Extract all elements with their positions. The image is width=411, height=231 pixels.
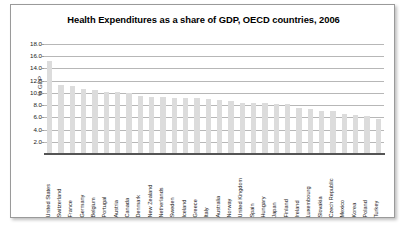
x-tick-label: Korea bbox=[352, 203, 358, 218]
bar bbox=[342, 114, 348, 154]
bar bbox=[149, 97, 155, 154]
x-tick-label: United States bbox=[46, 184, 52, 218]
x-tick-label: Sweden bbox=[171, 198, 177, 218]
x-tick-label: Australia bbox=[216, 196, 222, 218]
x-tick-label: Netherlands bbox=[159, 188, 165, 218]
bar bbox=[364, 116, 370, 154]
x-tick-label: United Kingdom bbox=[239, 178, 245, 218]
bar bbox=[353, 115, 359, 154]
x-tick-label: Austria bbox=[114, 201, 120, 218]
bar bbox=[274, 104, 280, 154]
bar bbox=[285, 104, 291, 154]
bar-series bbox=[44, 44, 384, 154]
x-axis-labels: United StatesSwitzerlandFranceGermanyBel… bbox=[44, 156, 384, 218]
x-tick-label: Greece bbox=[193, 200, 199, 218]
bar bbox=[330, 111, 336, 154]
bar bbox=[92, 90, 98, 154]
x-tick-label: Japan bbox=[273, 203, 279, 218]
bar bbox=[104, 92, 110, 154]
x-tick-label: Slovakia bbox=[318, 197, 324, 218]
bar bbox=[206, 99, 212, 154]
bar bbox=[308, 109, 314, 154]
bar bbox=[172, 98, 178, 154]
x-axis-line bbox=[44, 153, 385, 155]
x-tick-label: Denmark bbox=[137, 195, 143, 218]
x-tick-label: Germany bbox=[80, 195, 86, 218]
x-tick-label: Portugal bbox=[103, 197, 109, 218]
x-tick-label: Luxembourg bbox=[307, 187, 313, 218]
x-tick-label: Spain bbox=[250, 204, 256, 218]
x-tick-label: Turkey bbox=[375, 201, 381, 218]
x-tick-label: Poland bbox=[363, 201, 369, 218]
bar bbox=[47, 61, 53, 155]
x-tick-label: Belgium bbox=[91, 198, 97, 218]
bar bbox=[58, 85, 64, 154]
chart-frame: Health Expenditures as a share of GDP, O… bbox=[10, 4, 395, 218]
bar bbox=[319, 111, 325, 154]
x-tick-label: Iceland bbox=[182, 200, 188, 218]
bar bbox=[217, 100, 223, 154]
x-tick-label: Italy bbox=[205, 208, 211, 218]
x-tick-label: Finland bbox=[284, 200, 290, 218]
bar bbox=[160, 97, 166, 154]
bar bbox=[126, 93, 132, 154]
x-tick-label: Norway bbox=[227, 199, 233, 218]
plot-area bbox=[44, 44, 384, 154]
x-tick-label: Mexico bbox=[341, 200, 347, 218]
x-tick-label: Ireland bbox=[295, 201, 301, 218]
bar bbox=[138, 96, 144, 154]
bar bbox=[240, 103, 246, 154]
bar bbox=[296, 108, 302, 154]
y-axis-ticks: 18.016.014.012.010.08.06.04.02.0 bbox=[11, 44, 42, 154]
bar bbox=[228, 101, 234, 154]
bar bbox=[70, 86, 76, 154]
x-tick-label: Switzerland bbox=[57, 189, 63, 218]
bar bbox=[376, 119, 382, 154]
x-tick-label: New Zealand bbox=[148, 185, 154, 218]
bar bbox=[183, 98, 189, 154]
chart-title: Health Expenditures as a share of GDP, O… bbox=[11, 14, 396, 25]
x-tick-label: France bbox=[69, 201, 75, 218]
bar bbox=[262, 103, 268, 154]
bar bbox=[115, 92, 121, 154]
bar bbox=[251, 103, 257, 154]
bar bbox=[81, 89, 87, 154]
x-tick-label: Canada bbox=[125, 198, 131, 218]
x-tick-label: Czech Republic bbox=[329, 179, 335, 218]
x-tick-label: Hungary bbox=[261, 197, 267, 218]
bar bbox=[194, 98, 200, 154]
